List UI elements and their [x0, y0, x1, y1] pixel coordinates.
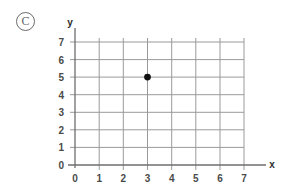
x-tick-6: 6 — [217, 173, 223, 184]
worksheet-canvas: C 7 6 5 4 — [0, 0, 287, 188]
y-tick-2: 2 — [58, 125, 64, 136]
x-axis-label: x — [269, 159, 275, 170]
grid-lines-horizontal — [70, 42, 244, 147]
y-tick-7: 7 — [58, 37, 64, 48]
x-tick-4: 4 — [169, 173, 175, 184]
grid-lines-vertical — [99, 38, 244, 170]
y-tick-3: 3 — [58, 107, 64, 118]
data-point — [144, 74, 151, 81]
x-tick-5: 5 — [193, 173, 199, 184]
x-axis-tick-labels: 0 1 2 3 4 5 6 7 — [72, 173, 247, 184]
y-tick-0: 0 — [58, 160, 64, 171]
y-tick-6: 6 — [58, 55, 64, 66]
coordinate-grid-chart: 7 6 5 4 3 2 1 0 0 1 2 3 4 5 6 7 y x — [0, 0, 287, 188]
x-tick-0: 0 — [72, 173, 78, 184]
y-axis-label: y — [67, 17, 73, 28]
y-axis-tick-labels: 7 6 5 4 3 2 1 0 — [58, 37, 64, 171]
y-tick-1: 1 — [58, 142, 64, 153]
x-tick-2: 2 — [121, 173, 127, 184]
x-tick-1: 1 — [96, 173, 102, 184]
y-tick-5: 5 — [58, 72, 64, 83]
x-tick-3: 3 — [145, 173, 151, 184]
y-tick-4: 4 — [58, 90, 64, 101]
x-tick-7: 7 — [241, 173, 247, 184]
